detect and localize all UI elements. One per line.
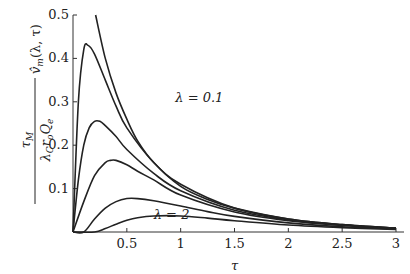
y-tick-label: 0.4 xyxy=(48,50,69,65)
y-tick-label: 0.3 xyxy=(48,94,69,109)
y-tick-label: 0.1 xyxy=(48,181,69,196)
curve-series-2 xyxy=(73,121,396,232)
x-tick-label: 0.5 xyxy=(116,236,137,251)
curve-series-0 xyxy=(96,15,396,228)
y-tick-label: 0.5 xyxy=(48,7,69,22)
x-axis-label: τ xyxy=(231,258,239,273)
chart: 0.511.522.530.10.20.30.40.5τ λ = 0.1λ = … xyxy=(0,0,410,274)
annotation-label: λ = 0.1 xyxy=(174,90,223,105)
x-tick-label: 1.5 xyxy=(224,236,245,251)
svg-text:τM: τM xyxy=(18,131,35,148)
x-tick-label: 3 xyxy=(392,236,400,251)
svg-text:v̂m(λ, τ): v̂m(λ, τ) xyxy=(28,24,45,74)
svg-text:λCroQe: λCroQe xyxy=(38,119,55,163)
curve-series-1 xyxy=(73,44,396,232)
axes: 0.511.522.530.10.20.30.40.5τ xyxy=(48,7,404,273)
x-tick-label: 2 xyxy=(284,236,292,251)
x-tick-label: 2.5 xyxy=(332,236,353,251)
x-tick-label: 1 xyxy=(177,236,185,251)
annotation-label: λ = 2 xyxy=(153,207,190,222)
curves xyxy=(73,15,396,233)
